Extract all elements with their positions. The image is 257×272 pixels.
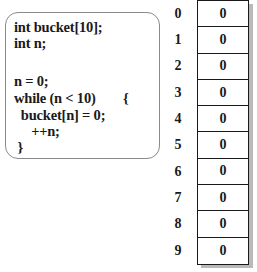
bucket-array: 0 0 0 0 0 0 0 0 0 0 xyxy=(197,0,249,265)
array-cell: 0 xyxy=(198,27,248,53)
array-index: 8 xyxy=(171,216,185,232)
array-cell: 0 xyxy=(198,185,248,211)
array-cell: 0 xyxy=(198,1,248,27)
code-line-init-n: n = 0; xyxy=(14,73,48,89)
array-cell: 0 xyxy=(198,238,248,264)
code-line-while: while (n < 10) { xyxy=(14,90,129,106)
array-cell: 0 xyxy=(198,106,248,132)
code-line-assign: bucket[n] = 0; xyxy=(14,107,105,123)
array-index: 5 xyxy=(171,137,185,153)
array-cell: 0 xyxy=(198,54,248,80)
code-line-increment: ++n; xyxy=(14,123,60,139)
array-index: 2 xyxy=(171,58,185,74)
code-panel: int bucket[10]; int n; n = 0; while (n <… xyxy=(5,12,160,159)
array-cell: 0 xyxy=(198,211,248,237)
array-index: 9 xyxy=(171,243,185,259)
array-index: 3 xyxy=(171,85,185,101)
array-cell: 0 xyxy=(198,132,248,158)
array-index: 6 xyxy=(171,164,185,180)
array-index: 7 xyxy=(171,190,185,206)
array-index: 1 xyxy=(171,32,185,48)
array-cell: 0 xyxy=(198,159,248,185)
code-line-declare-array: int bucket[10]; xyxy=(14,19,102,35)
code-line-declare-n: int n; xyxy=(14,35,46,51)
array-index: 4 xyxy=(171,111,185,127)
array-cell: 0 xyxy=(198,80,248,106)
array-index: 0 xyxy=(171,6,185,22)
code-line-close-brace: } xyxy=(14,139,23,155)
